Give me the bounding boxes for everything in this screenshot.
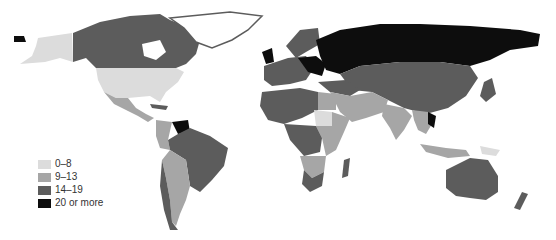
legend-swatch	[38, 199, 51, 208]
legend-item-14-19: 14–19	[38, 184, 103, 196]
legend-swatch	[38, 160, 51, 169]
region-egypt	[318, 92, 336, 110]
region-alaska	[20, 33, 73, 64]
region-new-zealand	[514, 192, 528, 210]
legend-item-9-13: 9–13	[38, 171, 103, 183]
legend-swatch	[38, 186, 51, 195]
legend-label: 0–8	[55, 159, 72, 169]
region-aleutian	[14, 36, 26, 42]
legend-label: 14–19	[55, 185, 83, 195]
region-north-africa	[260, 88, 318, 124]
legend-swatch	[38, 173, 51, 182]
region-scandinavia	[286, 28, 320, 58]
region-australia	[446, 158, 498, 200]
legend-label: 20 or more	[55, 198, 103, 208]
region-cuba	[150, 104, 168, 110]
region-sudan	[314, 110, 332, 126]
region-indonesia	[420, 144, 470, 158]
region-papua	[480, 146, 500, 156]
legend-label: 9–13	[55, 172, 77, 182]
region-central-africa	[284, 124, 322, 156]
legend: 0–8 9–13 14–19 20 or more	[38, 158, 103, 210]
region-uk	[262, 48, 274, 64]
legend-item-0-8: 0–8	[38, 158, 103, 170]
region-madagascar	[342, 158, 350, 178]
legend-item-20-plus: 20 or more	[38, 197, 103, 209]
region-india	[382, 104, 412, 140]
region-japan	[480, 78, 496, 102]
